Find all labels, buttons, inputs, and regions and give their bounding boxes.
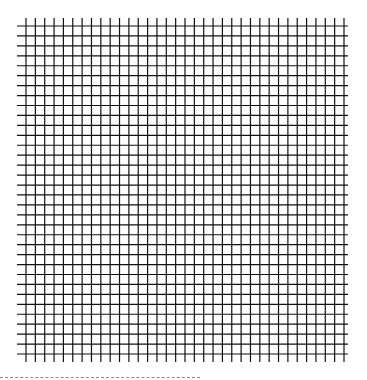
grid-lines [0, 0, 367, 380]
dashed-separator [0, 377, 200, 378]
